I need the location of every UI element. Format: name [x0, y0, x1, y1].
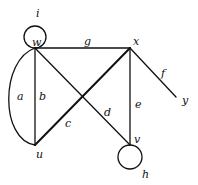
vertex-label-u: u [36, 148, 43, 161]
edge-label-c: c [65, 117, 71, 130]
graph-diagram: w x y u v a b c d e f g h i [0, 0, 198, 185]
edge-label-f: f [160, 67, 167, 80]
vertex-label-w: w [32, 36, 42, 49]
edge-label-a: a [17, 90, 24, 103]
vertex-label-x: x [133, 35, 140, 48]
edge-f [130, 48, 176, 97]
edge-label-b: b [39, 90, 46, 103]
edge-label-g: g [84, 35, 91, 48]
vertex-label-v: v [134, 133, 141, 146]
edge-label-h: h [142, 168, 149, 181]
edge-label-d: d [104, 106, 111, 119]
vertex-label-y: y [181, 94, 189, 107]
edge-label-i: i [36, 7, 40, 20]
edge-h-loop [118, 145, 142, 169]
edge-label-e: e [135, 98, 142, 111]
